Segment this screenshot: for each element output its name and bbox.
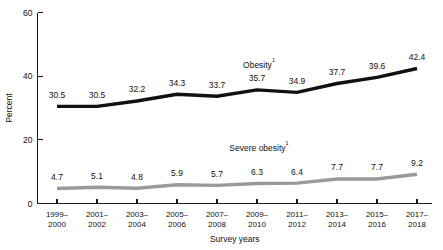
series-line-obesity — [57, 69, 417, 107]
series-line-severe-obesity — [57, 174, 417, 188]
x-tick-label: 2001–2002 — [86, 210, 109, 229]
data-label: 5.7 — [211, 169, 223, 179]
data-label: 5.9 — [171, 168, 183, 178]
x-tick-label: 2009–2010 — [246, 210, 269, 229]
data-label: 6.3 — [251, 167, 263, 177]
y-tick-label: 0 — [28, 199, 33, 209]
data-label: 7.7 — [331, 162, 343, 172]
data-label: 32.2 — [129, 84, 146, 94]
x-axis-title: Survey years — [210, 234, 260, 244]
series-annotation-obesity: Obesity1 — [243, 57, 275, 70]
y-tick-label: 40 — [23, 71, 33, 81]
data-label: 30.5 — [49, 90, 66, 100]
data-label: 6.4 — [291, 167, 303, 177]
y-tick-label: 20 — [23, 135, 33, 145]
data-label: 35.7 — [249, 73, 266, 83]
data-label: 5.1 — [91, 171, 103, 181]
data-label: 7.7 — [371, 162, 383, 172]
x-tick-label: 2013–2014 — [326, 210, 349, 229]
data-label: 4.8 — [131, 172, 143, 182]
y-tick-label: 60 — [23, 8, 33, 18]
data-label: 37.7 — [329, 67, 346, 77]
x-tick-label: 2003–2004 — [126, 210, 149, 229]
data-label: 30.5 — [89, 90, 106, 100]
chart-container: 02040601999–20002001–20022003–20042005–2… — [0, 0, 443, 250]
y-axis-title: Percent — [4, 93, 14, 123]
series-obesity — [57, 69, 417, 107]
series-annotation-severe-obesity: Severe obesity1 — [229, 140, 288, 153]
data-label: 42.4 — [409, 52, 426, 62]
line-chart: 02040601999–20002001–20022003–20042005–2… — [0, 0, 443, 250]
data-label: 33.7 — [209, 80, 226, 90]
data-label: 4.7 — [51, 172, 63, 182]
x-tick-label: 2005–2006 — [166, 210, 189, 229]
data-label: 34.9 — [289, 76, 306, 86]
x-tick-label: 2015–2016 — [366, 210, 389, 229]
x-tick-label: 2007–2008 — [206, 210, 229, 229]
data-label: 34.3 — [169, 78, 186, 88]
series-annotations: Obesity1Severe obesity1 — [229, 57, 288, 153]
y-axis-ticks: 0204060 — [23, 8, 42, 209]
data-label: 9.2 — [411, 158, 423, 168]
x-tick-label: 2011–2012 — [286, 210, 308, 229]
x-tick-label: 2017–2018 — [406, 210, 429, 229]
series-severe-obesity — [57, 174, 417, 188]
x-tick-label: 1999–2000 — [46, 210, 69, 229]
data-label: 39.6 — [369, 61, 386, 71]
